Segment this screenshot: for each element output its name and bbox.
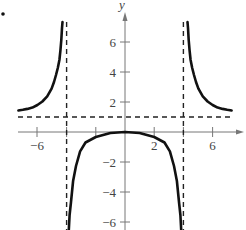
function-graph: −6 2 6 y 6 4 2 −2 −4 −6 bbox=[0, 0, 246, 230]
x-axis-arrow-icon bbox=[236, 130, 244, 135]
y-axis-label: y bbox=[117, 0, 125, 12]
y-tick-label: −4 bbox=[102, 185, 116, 200]
right-branch bbox=[188, 22, 232, 111]
left-branch bbox=[18, 22, 62, 111]
y-tick-label: −6 bbox=[102, 215, 116, 230]
x-axis: −6 2 6 bbox=[18, 127, 244, 153]
x-tick-label: 6 bbox=[209, 138, 216, 153]
y-axis-arrow-icon bbox=[123, 12, 128, 21]
bullet-marker bbox=[1, 12, 5, 16]
y-tick-label: −2 bbox=[102, 155, 116, 170]
x-tick-label: 2 bbox=[151, 138, 158, 153]
y-axis: y 6 4 2 −2 −4 −6 bbox=[102, 0, 130, 230]
x-tick-label: −6 bbox=[30, 138, 44, 153]
y-tick-label: 6 bbox=[110, 35, 117, 50]
y-tick-label: 2 bbox=[110, 95, 117, 110]
y-tick-label: 4 bbox=[110, 65, 117, 80]
